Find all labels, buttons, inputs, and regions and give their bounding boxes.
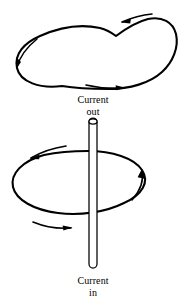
current-out-label: Current out — [0, 94, 186, 117]
current-in-label: Current in — [0, 275, 186, 298]
upper-field-loop — [16, 18, 176, 89]
lower-loop-bottom-arrow — [33, 222, 73, 230]
vertical-current-carrying-rod — [89, 118, 97, 268]
current-loops-diagram — [0, 0, 186, 304]
current-in-label-line1: Current — [0, 275, 186, 287]
current-out-label-line1: Current — [0, 94, 186, 106]
current-in-label-line2: in — [0, 287, 186, 299]
figure-container: Current out Current in — [0, 0, 186, 304]
lower-field-loop — [13, 151, 146, 214]
current-out-label-line2: out — [0, 106, 186, 118]
